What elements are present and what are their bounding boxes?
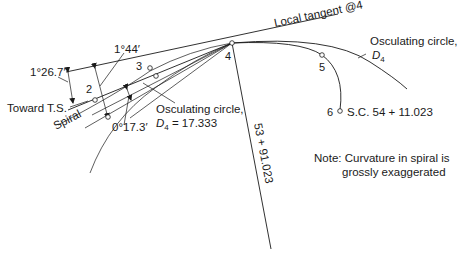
angle-label-0-17-3: 0°17.3′ [112, 121, 148, 133]
point-2 [93, 98, 98, 103]
point-label-6: 6 [327, 106, 333, 118]
local-tangent-label: Local tangent @4 [273, 0, 364, 29]
dim-1-26-7 [68, 72, 73, 103]
point-label-4: 4 [225, 50, 231, 62]
note-line-1: Note: Curvature in spiral is [314, 152, 450, 164]
osc-circle-right-label: Osculating circle, [370, 35, 458, 47]
dim-0-17-3 [127, 89, 131, 100]
point-6 [338, 109, 343, 114]
sc-station-label: S.C. 54 + 11.023 [347, 106, 433, 118]
spiral-curve-diagram: 2 3 4 5 6 Local tangent @4 Osculating ci… [0, 0, 462, 259]
point-label-3: 3 [136, 60, 142, 72]
angle-label-1-26-7: 1°26.7′ [30, 66, 66, 78]
angle-label-1-44: 1°44′ [114, 43, 140, 55]
osc-circle-left-value: D4 = 17.333 [156, 117, 217, 132]
note-line-2: grossly exaggerated [342, 166, 446, 178]
spiral-curve-right [232, 43, 341, 111]
point-3 [148, 66, 153, 71]
radial-station-label: 53 + 91.023 [252, 122, 275, 184]
osc-circle-right-d: D4 [372, 49, 385, 64]
point-4 [230, 41, 235, 46]
toward-ts-label: Toward T.S. [7, 102, 67, 114]
point-label-2: 2 [86, 83, 92, 95]
point-3b [154, 74, 159, 79]
point-5 [320, 53, 325, 58]
point-label-5: 5 [319, 61, 325, 73]
leader-1-44 [100, 53, 124, 86]
point-2b [106, 115, 111, 120]
osc-circle-left-label: Osculating circle, [156, 103, 244, 115]
